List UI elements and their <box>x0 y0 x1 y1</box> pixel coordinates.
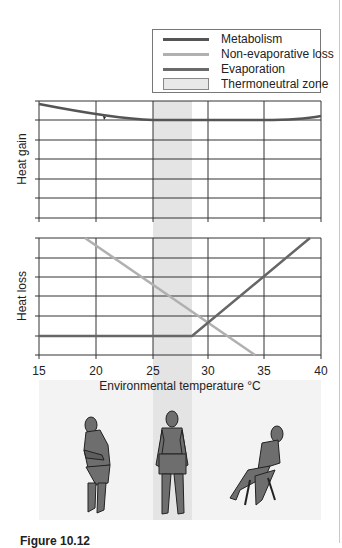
reclining-person-icon <box>230 426 283 505</box>
x-axis-title: Environmental temperature °C <box>39 379 321 393</box>
lower-y-axis-title: Heat loss <box>15 266 29 326</box>
legend: Metabolism Non-evaporative loss Evaporat… <box>152 29 321 93</box>
legend-label: Non-evaporative loss <box>221 47 334 62</box>
x-tick-label: 40 <box>306 364 336 378</box>
legend-item-non-evaporative: Non-evaporative loss <box>153 47 322 62</box>
legend-label: Metabolism <box>221 32 282 47</box>
shivering-person-icon <box>84 417 110 513</box>
non-evaporative-swatch <box>163 53 209 56</box>
x-tick-label: 35 <box>249 364 279 378</box>
evaporation-swatch <box>163 68 209 71</box>
legend-label: Thermoneutral zone <box>221 77 328 92</box>
metabolism-swatch <box>163 38 209 41</box>
upper-y-axis-title: Heat gain <box>15 129 29 189</box>
legend-item-evaporation: Evaporation <box>153 62 322 77</box>
legend-item-metabolism: Metabolism <box>153 32 322 47</box>
x-tick-label: 15 <box>24 364 54 378</box>
x-tick-label: 25 <box>138 364 168 378</box>
thermoneutral-swatch <box>163 78 209 90</box>
figure-caption: Figure 10.12 <box>20 534 90 548</box>
x-tick-label: 30 <box>193 364 223 378</box>
legend-label: Evaporation <box>221 62 285 77</box>
x-tick-label: 20 <box>81 364 111 378</box>
legend-item-thermoneutral: Thermoneutral zone <box>153 77 322 92</box>
